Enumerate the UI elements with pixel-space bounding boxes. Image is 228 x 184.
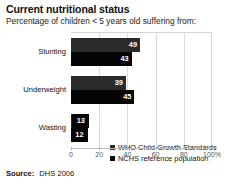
bar: 49 (71, 38, 140, 52)
axis-tick (212, 147, 213, 150)
axis-tick (71, 147, 72, 150)
axis-tick-label: 20 (95, 151, 103, 158)
bar-pair: 4943 (71, 38, 140, 66)
source-label: Source: (6, 169, 34, 178)
bar: 45 (71, 90, 134, 104)
bar-pair: 3945 (71, 76, 134, 104)
axis-tick (184, 147, 185, 150)
chart-subtitle: Percentage of children < 5 years old suf… (6, 16, 228, 27)
chart-header: Current nutritional status Percentage of… (0, 0, 228, 27)
bar: 12 (71, 128, 88, 142)
axis-tick-label: 100% (203, 151, 221, 158)
bar-value-label: 39 (115, 76, 124, 90)
bar-value-label: 13 (72, 114, 89, 128)
bar: 43 (71, 52, 132, 66)
axis-tick (127, 147, 128, 150)
category-label: Stunting (0, 47, 66, 56)
page-title: Current nutritional status (6, 3, 228, 16)
axis-tick-label: 80 (180, 151, 188, 158)
source-note: Source:DHS 2006 (6, 169, 74, 178)
bar-pair: 1312 (71, 114, 89, 142)
bar-value-label: 12 (71, 128, 88, 142)
x-axis: 020406080100% (71, 150, 213, 162)
category-label: Wasting (0, 123, 66, 132)
axis-tick (99, 147, 100, 150)
axis-baseline (71, 148, 213, 149)
bar-value-label: 43 (120, 52, 129, 66)
bar-value-label: 49 (129, 38, 138, 52)
gridline (156, 33, 157, 148)
gridline (184, 33, 185, 148)
category-label: Underweight (0, 85, 66, 94)
axis-tick-label: 40 (123, 151, 131, 158)
axis-tick (156, 147, 157, 150)
bar-value-label: 45 (123, 90, 132, 104)
axis-tick-label: 60 (152, 151, 160, 158)
axis-tick-label: 0 (69, 151, 73, 158)
bar-chart: Stunting4943Underweight3945Wasting1312 W… (0, 32, 228, 152)
bar: 13 (71, 114, 89, 128)
source-value: DHS 2006 (39, 169, 74, 178)
bar: 39 (71, 76, 126, 90)
